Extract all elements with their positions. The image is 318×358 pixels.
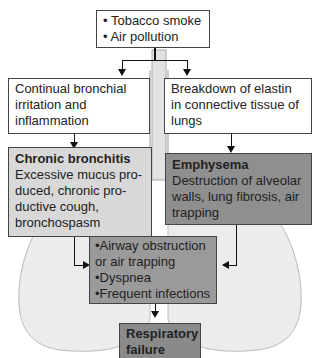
- disease-title: Emphysema: [172, 157, 305, 173]
- cause-item: • Air pollution: [103, 29, 203, 45]
- mechanism-text: Breakdown of elastin in connective tissu…: [171, 81, 299, 128]
- copd-diagram: • Tobacco smoke • Air pollution Continua…: [0, 0, 318, 358]
- right-mechanism-box: Breakdown of elastin in connective tissu…: [164, 78, 312, 134]
- arrow-down-icon: [118, 69, 126, 76]
- connector: [122, 60, 188, 61]
- effect-item: or air trapping: [95, 254, 211, 270]
- emphysema-box: Emphysema Destruction of alveolar walls,…: [165, 153, 312, 225]
- disease-title: Chronic bronchitis: [15, 151, 145, 167]
- disease-text: Excessive mucus pro-duced, chronic pro-d…: [15, 167, 145, 231]
- cause-item: • Tobacco smoke: [103, 13, 203, 29]
- arrow-left-icon: [222, 261, 229, 269]
- chronic-bronchitis-box: Chronic bronchitis Excessive mucus pro-d…: [8, 147, 152, 237]
- connector: [154, 48, 156, 60]
- connector: [74, 237, 75, 265]
- arrow-down-icon: [227, 146, 235, 153]
- outcome-title: Respiratory failure: [126, 326, 198, 357]
- causes-box: • Tobacco smoke • Air pollution: [96, 10, 210, 48]
- effect-item: •Airway obstruction: [95, 238, 211, 254]
- respiratory-failure-box: Respiratory failure: [119, 323, 201, 358]
- mechanism-text: Continual bronchial irritation and infla…: [15, 81, 126, 128]
- arrow-down-icon: [183, 69, 191, 76]
- effect-item: •Frequent infections: [95, 286, 211, 302]
- disease-text: Destruction of alveolar walls, lung fibr…: [172, 173, 305, 221]
- effects-box: •Airway obstruction or air trapping •Dys…: [89, 236, 217, 304]
- effect-item: •Dyspnea: [95, 270, 211, 286]
- connector: [236, 225, 237, 265]
- left-mechanism-box: Continual bronchial irritation and infla…: [8, 78, 150, 134]
- arrow-down-icon: [151, 311, 159, 318]
